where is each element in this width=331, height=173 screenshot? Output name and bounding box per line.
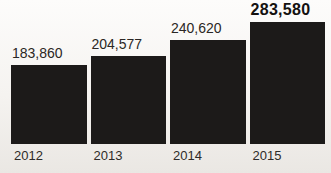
bar-group: 204,577 <box>91 37 167 144</box>
value-label: 240,620 <box>171 21 246 36</box>
bar-group: 183,860 <box>11 46 87 144</box>
value-label: 283,580 <box>251 1 326 18</box>
bar-group: 240,620 <box>170 21 246 144</box>
x-axis-labels: 2012201320142015 <box>11 148 325 163</box>
bars-row: 183,860204,577240,620283,580 <box>11 0 325 144</box>
bar <box>91 56 167 144</box>
year-label: 2013 <box>91 148 167 163</box>
year-label: 2012 <box>11 148 87 163</box>
value-label: 183,860 <box>12 46 87 61</box>
bar <box>11 65 87 144</box>
year-label: 2014 <box>170 148 246 163</box>
value-label: 204,577 <box>92 37 167 52</box>
bar <box>170 40 246 144</box>
year-label: 2015 <box>250 148 326 163</box>
bar <box>250 22 326 144</box>
bar-group: 283,580 <box>250 1 326 144</box>
bar-chart: 183,860204,577240,620283,580 20122013201… <box>0 0 331 173</box>
